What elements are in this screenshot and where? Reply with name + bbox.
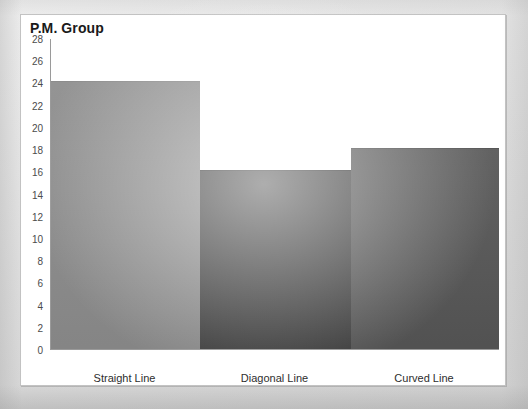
y-axis-tick-label: 20 [32,122,43,133]
y-axis-tick-label: 16 [32,167,43,178]
x-axis-category-label: Diagonal Line [199,372,350,384]
plot-area: 2826242220181614121086420 [50,39,499,350]
bar-group [51,39,499,349]
y-axis-tick-label: 2 [37,322,43,333]
y-axis-tick-label: 6 [37,278,43,289]
y-axis-tick-label: 12 [32,211,43,222]
y-axis-tick-label: 10 [32,233,43,244]
y-axis-tick-label: 28 [32,34,43,45]
y-axis-tick-label: 14 [32,189,43,200]
y-axis-tick-label: 22 [32,100,43,111]
bar-fill [200,170,351,349]
y-axis-tick-label: 0 [37,345,43,356]
bar [200,39,351,349]
y-axis-tick-label: 8 [37,256,43,267]
bar-fill [51,81,200,349]
x-axis-category-labels: Straight LineDiagonal LineCurved Line [50,372,499,384]
bar [351,39,499,349]
bar-fill [351,148,499,349]
chart-page: P.M. Group 2826242220181614121086420 Str… [0,0,528,409]
y-axis-tick-label: 4 [37,300,43,311]
y-axis-tick-label: 26 [32,56,43,67]
x-axis-category-label: Straight Line [50,372,199,384]
bar [51,39,200,349]
x-axis-category-label: Curved Line [350,372,498,384]
chart-panel: P.M. Group 2826242220181614121086420 Str… [20,14,506,386]
y-axis-tick-label: 18 [32,145,43,156]
x-axis-line [50,349,499,350]
y-axis-tick-label: 24 [32,78,43,89]
